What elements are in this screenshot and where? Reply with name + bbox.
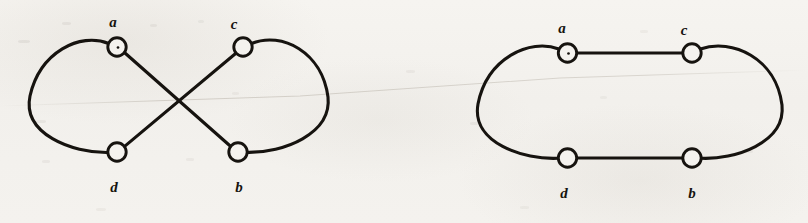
node-label-b-right: b xyxy=(688,186,696,201)
node-label-c-left: c xyxy=(231,17,238,32)
node-c-left xyxy=(234,38,252,56)
node-label-b-left: b xyxy=(235,180,243,195)
node-a-left-center-dot xyxy=(117,46,120,49)
node-b-left xyxy=(229,143,247,161)
figure-canvas: a c d b a c d b xyxy=(0,0,808,223)
left-panel-group xyxy=(29,38,328,161)
edge-c-b-right xyxy=(700,46,782,158)
scan-scratch-line xyxy=(0,70,808,106)
node-d-right xyxy=(558,149,576,167)
node-b-right xyxy=(683,149,701,167)
edge-a-d-right xyxy=(477,46,558,158)
node-c-right xyxy=(683,44,701,62)
node-d-left xyxy=(108,143,126,161)
edge-a-d xyxy=(29,40,108,152)
node-label-d-right: d xyxy=(560,186,568,201)
node-label-a-right: a xyxy=(558,21,566,36)
node-label-d-left: d xyxy=(110,180,118,195)
node-a-right-center-dot xyxy=(567,52,570,55)
node-label-c-right: c xyxy=(681,23,688,38)
right-panel-group xyxy=(477,44,782,167)
node-label-a-left: a xyxy=(109,15,117,30)
